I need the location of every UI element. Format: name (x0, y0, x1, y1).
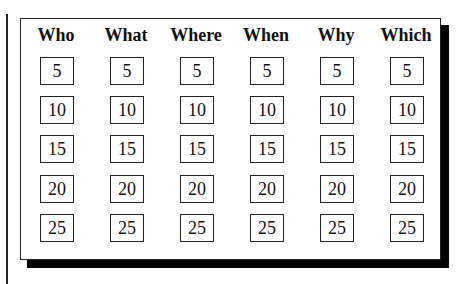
value-box: 15 (250, 135, 284, 163)
value-box: 20 (110, 175, 144, 203)
value-box: 20 (390, 175, 424, 203)
column-header: Which (351, 25, 461, 46)
value-box: 5 (390, 57, 424, 85)
value-box: 10 (40, 96, 74, 124)
value-box: 5 (180, 57, 214, 85)
value-box: 15 (390, 135, 424, 163)
value-box: 10 (180, 96, 214, 124)
value-box: 15 (110, 135, 144, 163)
value-box: 10 (320, 96, 354, 124)
value-box: 25 (390, 214, 424, 242)
value-box: 5 (320, 57, 354, 85)
value-box: 25 (40, 214, 74, 242)
left-margin-line (6, 14, 8, 284)
value-box: 15 (320, 135, 354, 163)
value-box: 20 (180, 175, 214, 203)
value-box: 25 (320, 214, 354, 242)
value-box: 20 (250, 175, 284, 203)
value-box: 15 (40, 135, 74, 163)
value-box: 25 (180, 214, 214, 242)
question-grid-panel: Who510152025What510152025Where510152025W… (20, 18, 441, 260)
value-box: 20 (40, 175, 74, 203)
value-box: 25 (250, 214, 284, 242)
value-box: 5 (110, 57, 144, 85)
value-box: 5 (40, 57, 74, 85)
value-box: 5 (250, 57, 284, 85)
value-box: 10 (110, 96, 144, 124)
value-box: 10 (390, 96, 424, 124)
value-box: 25 (110, 214, 144, 242)
value-box: 20 (320, 175, 354, 203)
value-box: 15 (180, 135, 214, 163)
value-box: 10 (250, 96, 284, 124)
